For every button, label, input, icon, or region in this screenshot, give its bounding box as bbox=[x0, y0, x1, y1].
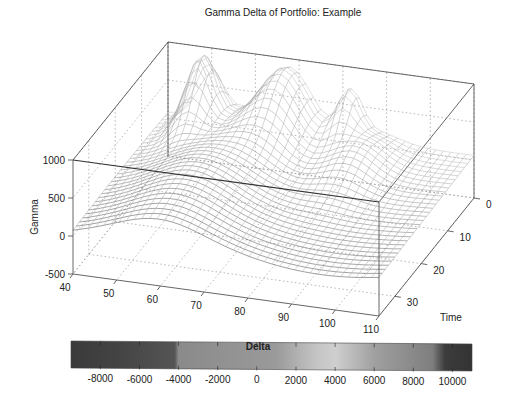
colorbar-tick-label: 10000 bbox=[439, 376, 467, 387]
colorbar: -8000-6000-4000-200002000400060008000100… bbox=[71, 341, 472, 387]
colorbar-tick-label: -2000 bbox=[205, 374, 231, 385]
y-axis-label: Time bbox=[440, 312, 462, 323]
colorbar-tick-label: -6000 bbox=[127, 374, 153, 385]
x-tick-label: 80 bbox=[234, 306, 246, 317]
z-tick-label: 0 bbox=[59, 231, 65, 242]
colorbar-label: Delta bbox=[246, 341, 271, 352]
gamma-delta-chart: Gamma Delta of Portfolio: Example -50005… bbox=[0, 0, 518, 409]
x-tick-label: 50 bbox=[103, 288, 115, 299]
z-tick-label: 1000 bbox=[43, 155, 66, 166]
x-tick-label: 100 bbox=[319, 318, 336, 329]
colorbar-tick-label: 2000 bbox=[285, 375, 308, 386]
axes-box bbox=[73, 160, 474, 316]
x-tick-label: 60 bbox=[147, 294, 159, 305]
z-tick-label: 500 bbox=[48, 193, 65, 204]
y-tick-label: 20 bbox=[433, 265, 445, 276]
colorbar-tick-label: -4000 bbox=[166, 374, 192, 385]
y-tick-label: 0 bbox=[486, 199, 492, 210]
z-tick-label: -500 bbox=[45, 269, 65, 280]
x-tick-label: 40 bbox=[59, 282, 71, 293]
colorbar-tick-label: 8000 bbox=[402, 376, 425, 387]
y-tick-label: 10 bbox=[460, 232, 472, 243]
x-tick-label: 110 bbox=[363, 324, 379, 335]
colorbar-tick-label: 0 bbox=[254, 374, 260, 385]
z-axis-label: Gamma bbox=[29, 199, 40, 235]
colorbar-gradient bbox=[71, 341, 472, 371]
chart-title: Gamma Delta of Portfolio: Example bbox=[205, 7, 362, 18]
colorbar-tick-label: -8000 bbox=[88, 373, 114, 384]
colorbar-tick-label: 6000 bbox=[363, 375, 386, 386]
y-tick-label: 30 bbox=[407, 297, 419, 308]
x-tick-label: 70 bbox=[191, 300, 203, 311]
x-tick-label: 90 bbox=[278, 312, 290, 323]
colorbar-tick-label: 4000 bbox=[324, 375, 347, 386]
surface-mesh bbox=[73, 55, 474, 277]
